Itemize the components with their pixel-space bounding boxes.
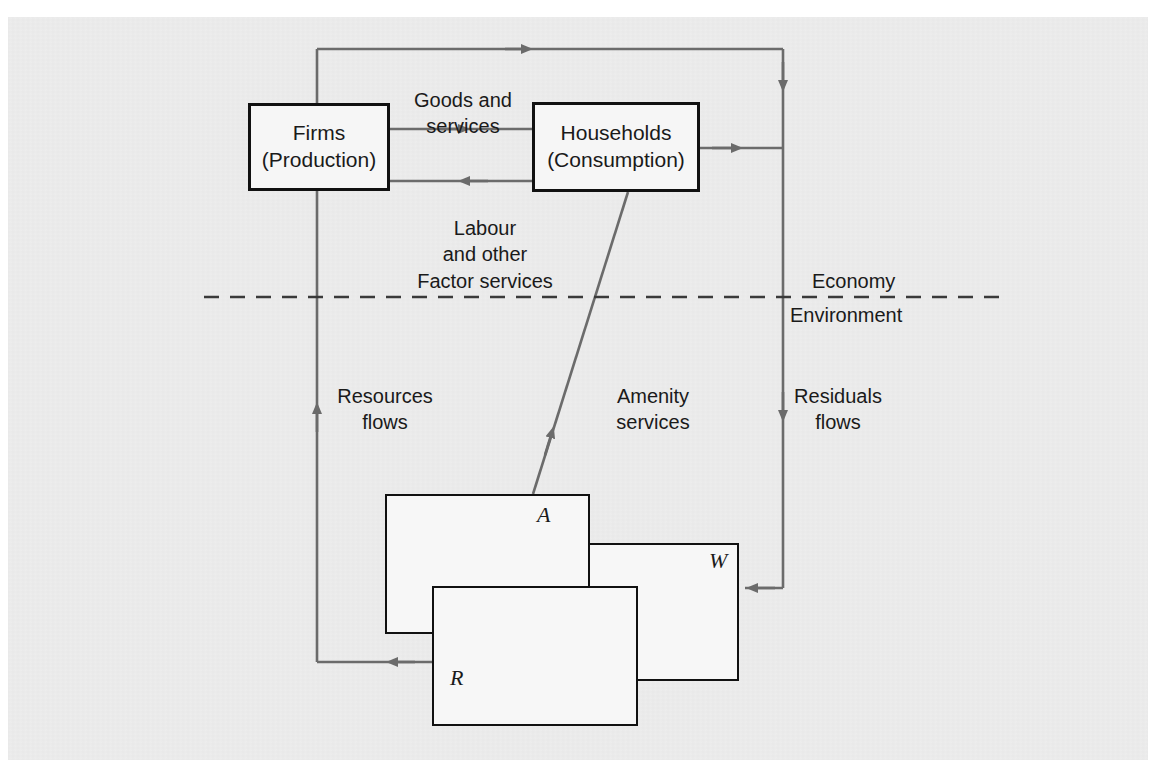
environment-box-r — [432, 586, 638, 726]
flow-label-resources-line2: flows — [330, 409, 440, 435]
flow-label-resources-line1: Resources — [330, 383, 440, 409]
flow-label-goods-line2: services — [404, 113, 522, 139]
flow-label-labour-line2: and other — [402, 241, 568, 267]
flow-label-goods-line1: Goods and — [404, 87, 522, 113]
node-households-line2: (Consumption) — [547, 147, 685, 174]
flow-label-amenity-line1: Amenity — [600, 383, 706, 409]
residuals-flow-line — [745, 49, 783, 588]
environment-box-w-label: W — [709, 548, 727, 574]
node-firms: Firms (Production) — [248, 103, 390, 191]
flow-label-amenity-line2: services — [600, 409, 706, 435]
divider-label-environment: Environment — [790, 304, 902, 327]
flow-label-residuals-flows: Residuals flows — [786, 383, 890, 436]
flow-label-residuals-line1: Residuals — [786, 383, 890, 409]
figure-root: A W R Firms (Production) Households (Con… — [0, 0, 1164, 774]
flow-label-labour-factor-services: Labour and other Factor services — [402, 215, 568, 294]
node-firms-line1: Firms — [293, 120, 345, 147]
node-households: Households (Consumption) — [532, 102, 700, 192]
flow-label-residuals-line2: flows — [786, 409, 890, 435]
node-firms-line2: (Production) — [262, 147, 376, 174]
flow-label-goods-and-services: Goods and services — [404, 87, 522, 140]
environment-box-a-label: A — [537, 502, 550, 528]
divider-label-economy: Economy — [812, 270, 895, 293]
flow-label-labour-line1: Labour — [402, 215, 568, 241]
flow-label-amenity-services: Amenity services — [600, 383, 706, 436]
flow-label-resources-flows: Resources flows — [330, 383, 440, 436]
flow-label-labour-line3: Factor services — [402, 268, 568, 294]
environment-box-r-label: R — [450, 665, 463, 691]
node-households-line1: Households — [561, 120, 672, 147]
